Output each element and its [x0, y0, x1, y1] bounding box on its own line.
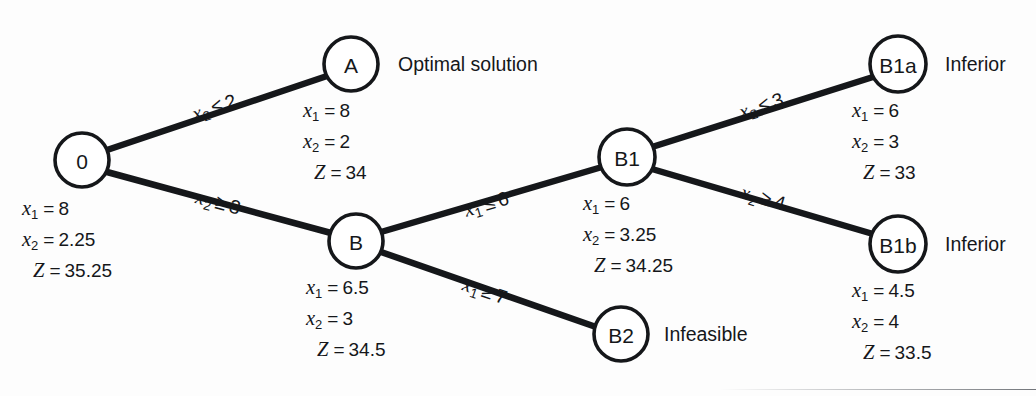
x-symbol: x [583, 223, 592, 245]
value-row-x1-A: x1=8 [303, 95, 367, 126]
value-number: 33.5 [895, 342, 932, 363]
value-row-z-B: Z=34.5 [306, 334, 386, 364]
value-number: 4 [888, 311, 899, 332]
value-row-x1-B1: x1=6 [583, 188, 673, 219]
equals-symbol: = [868, 280, 888, 301]
x-symbol: x [583, 192, 592, 214]
page-rule [720, 389, 1036, 390]
value-variable: x2 [22, 228, 38, 250]
node-label-B: B [349, 231, 363, 254]
value-row-x2-root: x2=2.25 [22, 224, 112, 255]
value-row-x2-B1b: x2=4 [852, 306, 932, 337]
value-number: 34.5 [349, 339, 386, 360]
equals-symbol: = [868, 100, 888, 121]
value-row-x1-B: x1=6.5 [306, 272, 386, 303]
equals-symbol: = [319, 100, 339, 121]
value-variable: x2 [303, 130, 319, 152]
value-number: 8 [339, 100, 350, 121]
x-symbol: x [852, 130, 861, 152]
value-number: 3 [342, 308, 353, 329]
branch-and-bound-figure: 0ABB1B2B1aB1b x2≤2x2≥3x1≤6x1≥7x2≤3x2≥4 x… [0, 0, 1036, 396]
node-label-B2: B2 [608, 324, 634, 347]
x-symbol: x [22, 197, 31, 219]
node-values-B1b: x1=4.5x2=4Z=33.5 [852, 275, 932, 367]
value-number: 2.25 [58, 229, 95, 250]
value-row-z-B1a: Z=33 [852, 157, 916, 187]
x-symbol: x [306, 307, 315, 329]
value-row-x1-B1b: x1=4.5 [852, 275, 932, 306]
value-row-z-root: Z=35.25 [22, 255, 112, 285]
value-variable: x2 [306, 307, 322, 329]
value-number: 6.5 [342, 277, 368, 298]
value-row-z-A: Z=34 [303, 157, 367, 187]
z-symbol: Z [314, 161, 325, 183]
equals-symbol: = [599, 224, 619, 245]
value-variable: x1 [22, 197, 38, 219]
value-number: 34 [346, 162, 367, 183]
equals-symbol: = [868, 131, 888, 152]
value-row-z-B1b: Z=33.5 [852, 337, 932, 367]
node-label-B1: B1 [614, 147, 640, 170]
equals-symbol: = [44, 260, 64, 281]
node-status-B1a: Inferior [945, 53, 1006, 76]
value-variable: x1 [852, 99, 868, 121]
equals-symbol: = [319, 131, 339, 152]
node-label-B1a: B1a [879, 54, 917, 77]
node-status-B1b: Inferior [945, 233, 1006, 256]
value-variable: x1 [852, 279, 868, 301]
x-symbol: x [22, 228, 31, 250]
value-number: 6 [619, 193, 630, 214]
value-variable: x2 [583, 223, 599, 245]
x-symbol: x [852, 310, 861, 332]
node-status-A: Optimal solution [398, 53, 538, 76]
value-row-x2-B: x2=3 [306, 303, 386, 334]
equals-symbol: = [874, 162, 894, 183]
equals-symbol: = [38, 198, 58, 219]
equals-symbol: = [868, 311, 888, 332]
value-number: 6 [888, 100, 899, 121]
node-status-B2: Infeasible [664, 323, 747, 346]
x-symbol: x [852, 99, 861, 121]
equals-symbol: = [38, 229, 58, 250]
value-number: 2 [339, 131, 350, 152]
node-values-B1a: x1=6x2=3Z=33 [852, 95, 916, 187]
node-values-root: x1=8x2=2.25Z=35.25 [22, 193, 112, 285]
value-number: 4.5 [888, 280, 914, 301]
node-label-A: A [344, 54, 358, 77]
value-variable: x1 [303, 99, 319, 121]
value-number: 8 [58, 198, 69, 219]
equals-symbol: = [322, 308, 342, 329]
z-symbol: Z [317, 338, 328, 360]
node-label-B1b: B1b [879, 234, 916, 257]
value-number: 34.25 [626, 255, 674, 276]
equals-symbol: = [605, 255, 625, 276]
node-values-B1: x1=6x2=3.25Z=34.25 [583, 188, 673, 280]
equals-symbol: = [599, 193, 619, 214]
value-number: 3 [888, 131, 899, 152]
value-variable: x2 [852, 130, 868, 152]
node-values-A: x1=8x2=2Z=34 [303, 95, 367, 187]
value-number: 33 [895, 162, 916, 183]
equals-symbol: = [325, 162, 345, 183]
equals-symbol: = [874, 342, 894, 363]
z-symbol: Z [863, 341, 874, 363]
value-row-x1-B1a: x1=6 [852, 95, 916, 126]
equals-symbol: = [328, 339, 348, 360]
node-label-root: 0 [76, 150, 88, 173]
value-variable: x1 [306, 276, 322, 298]
equals-symbol: = [322, 277, 342, 298]
value-number: 3.25 [619, 224, 656, 245]
value-row-z-B1: Z=34.25 [583, 250, 673, 280]
x-symbol: x [303, 99, 312, 121]
value-number: 35.25 [65, 260, 113, 281]
value-variable: x2 [852, 310, 868, 332]
z-symbol: Z [863, 161, 874, 183]
x-symbol: x [303, 130, 312, 152]
x-symbol: x [852, 279, 861, 301]
x-symbol: x [306, 276, 315, 298]
z-symbol: Z [33, 259, 44, 281]
value-row-x2-A: x2=2 [303, 126, 367, 157]
value-variable: x1 [583, 192, 599, 214]
value-row-x2-B1a: x2=3 [852, 126, 916, 157]
value-row-x2-B1: x2=3.25 [583, 219, 673, 250]
